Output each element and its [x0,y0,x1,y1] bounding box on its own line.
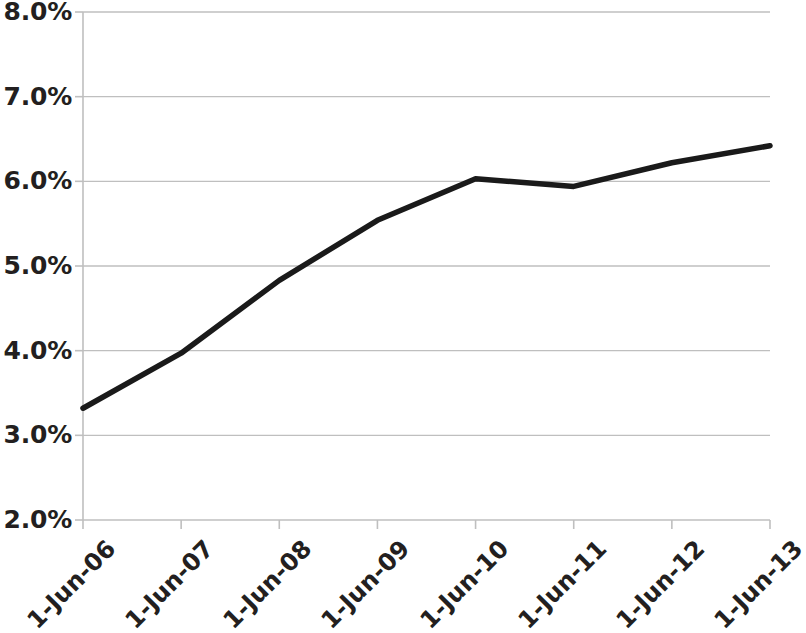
x-axis-tick-label-text: 1-Jun-11 [514,536,611,633]
x-axis-tick-label-text: 1-Jun-13 [710,536,806,633]
x-axis-tick-label: 1-Jun-10 [416,536,513,633]
x-axis-tick-label-text: 1-Jun-07 [121,536,218,633]
x-axis-tick-label: 1-Jun-12 [612,536,709,633]
x-axis-tick-label: 1-Jun-09 [317,536,414,633]
x-axis-tick-label: 1-Jun-06 [23,536,120,633]
x-axis-tick-label: 1-Jun-13 [710,536,806,633]
x-axis-tick-label-text: 1-Jun-10 [416,536,513,633]
x-axis-tick-label-text: 1-Jun-08 [219,536,316,633]
x-axis-tick-label-text: 1-Jun-09 [317,536,414,633]
x-axis-tick-label: 1-Jun-11 [514,536,611,633]
x-axis-tick-label-text: 1-Jun-06 [23,536,120,633]
x-axis-tick-label-text: 1-Jun-12 [612,536,709,633]
x-axis-tick-label: 1-Jun-08 [219,536,316,633]
x-axis-tick-label: 1-Jun-07 [121,536,218,633]
